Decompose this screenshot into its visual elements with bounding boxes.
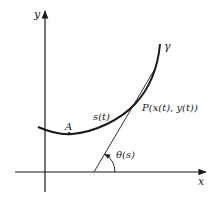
point-a (67, 132, 70, 135)
angle-label: θ(s) (116, 149, 135, 160)
x-axis-label: x (198, 175, 205, 188)
point-p-label: P(x(t), y(t)) (141, 102, 198, 113)
arc-length-label: s(t) (93, 111, 110, 122)
curvature-diagram: y x γ s(t) A P(x(t), y(t)) θ(s) (0, 0, 217, 202)
point-a-label: A (64, 121, 72, 132)
y-axis-label: y (33, 8, 41, 21)
angle-arc (105, 154, 116, 172)
curve-label: γ (164, 40, 171, 53)
